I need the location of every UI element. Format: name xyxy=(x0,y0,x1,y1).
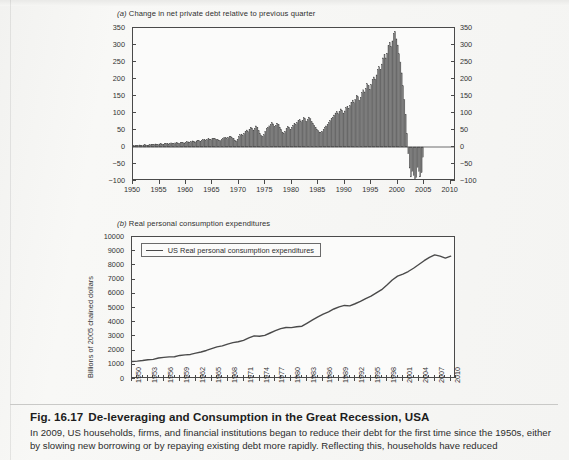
figure-caption: Fig. 16.17De-leveraging and Consumption … xyxy=(30,409,555,452)
panel-a-x-tick xyxy=(450,180,451,184)
panel-b-x-tick-label: 1986 xyxy=(325,367,334,383)
figure-number: Fig. 16.17 xyxy=(30,410,83,423)
panel-b-x-tick xyxy=(290,378,291,381)
panel-a-y-tick-label-right: −50 xyxy=(460,159,472,168)
panel-b-x-tick-label: 1992 xyxy=(357,367,366,383)
panel-a-y-tick-label-right: 200 xyxy=(460,74,472,83)
panel-a-x-tick-label: 1965 xyxy=(200,185,222,194)
panel-a-x-tick-label: 1990 xyxy=(333,185,355,194)
panel-b-x-tick-label: 1995 xyxy=(373,367,382,383)
page-left-rule xyxy=(10,0,11,460)
panel-a-y-tick-label-right: 0 xyxy=(460,142,464,151)
panel-b-x-tick-label: 1983 xyxy=(309,367,318,383)
panel-a-y-tick-label-right: 100 xyxy=(460,108,472,117)
panel-a-x-tick-label: 1995 xyxy=(359,185,381,194)
panel-a-y-tick-left xyxy=(132,112,136,113)
panel-a-y-tick-right xyxy=(451,129,455,130)
panel-a-x-tick-label: 1980 xyxy=(280,185,302,194)
panel-b-x-tick xyxy=(450,378,451,381)
panel-b-y-tick xyxy=(131,307,135,308)
panel-a-y-tick-label-right: −100 xyxy=(460,176,476,185)
panel-b-x-tick xyxy=(274,378,275,381)
panel-a-y-tick-right xyxy=(451,44,455,45)
panel-a-y-tick-right xyxy=(451,61,455,62)
panel-a-x-tick xyxy=(291,180,292,184)
panel-a-x-tick-label: 1970 xyxy=(227,185,249,194)
panel-b-x-tick-label: 2010 xyxy=(453,367,462,383)
panel-b-x-tick xyxy=(243,378,244,381)
panel-b-y-tick-label: 6000 xyxy=(0,288,124,297)
panel-a-y-tick-right xyxy=(451,180,455,181)
panel-b-x-tick xyxy=(418,378,419,381)
panel-a-y-tick-label-left: 100 xyxy=(0,108,125,117)
panel-b-x-tick-label: 1974 xyxy=(262,367,271,383)
panel-b-x-tick xyxy=(131,378,132,381)
panel-a-y-tick-right xyxy=(451,146,455,147)
panel-a-y-tick-label-right: 250 xyxy=(460,57,472,66)
panel-a-x-tick xyxy=(132,180,133,184)
panel-a-y-tick-left xyxy=(132,95,136,96)
panel-a-x-tick xyxy=(397,180,398,184)
panel-a-x-tick xyxy=(185,180,186,184)
panel-b-y-tick-label: 7000 xyxy=(0,274,124,283)
panel-a-x-tick-label: 2000 xyxy=(386,185,408,194)
panel-a-x-tick xyxy=(264,180,265,184)
panel-b-x-tick xyxy=(163,378,164,381)
panel-b-x-tick-label: 2007 xyxy=(437,367,446,383)
panel-b-x-tick xyxy=(402,378,403,381)
panel-b-title-text: Real personal consumption expenditures xyxy=(129,219,270,228)
panel-b-x-tick-label: 1980 xyxy=(293,367,302,383)
panel-b-x-tick-label: 1977 xyxy=(277,367,286,383)
panel-a-x-tick xyxy=(211,180,212,184)
panel-b-y-tick-label: 10000 xyxy=(0,232,124,241)
panel-a-y-tick-left xyxy=(132,163,136,164)
panel-b-title: (b) Real personal consumption expenditur… xyxy=(117,219,270,228)
page-top-shade xyxy=(0,0,569,6)
panel-a-bar-series xyxy=(133,28,455,180)
panel-b-x-tick-label: 1989 xyxy=(341,367,350,383)
panel-b-x-tick-label: 1971 xyxy=(246,367,255,383)
panel-b-y-tick xyxy=(131,321,135,322)
panel-a-x-tick xyxy=(238,180,239,184)
panel-a-x-tick xyxy=(317,180,318,184)
panel-b-plot-area xyxy=(131,236,455,378)
legend-line-swatch xyxy=(146,250,163,251)
panel-a-y-tick-label-left: 0 xyxy=(0,142,125,151)
panel-b-x-tick xyxy=(227,378,228,381)
panel-a-y-tick-left xyxy=(132,129,136,130)
panel-a-y-tick-label-right: 350 xyxy=(460,23,472,32)
panel-a-y-tick-left xyxy=(132,146,136,147)
panel-a-y-tick-right xyxy=(451,95,455,96)
panel-a-y-tick-label-left: 50 xyxy=(0,125,125,134)
panel-a-y-tick-right xyxy=(451,112,455,113)
panel-b-y-tick xyxy=(131,293,135,294)
panel-a-title-text: Change in net private debt relative to p… xyxy=(129,9,316,18)
panel-a-y-tick-label-right: 150 xyxy=(460,91,472,100)
panel-b-y-tick-label: 5000 xyxy=(0,303,124,312)
panel-b-x-tick-label: 1953 xyxy=(150,367,159,383)
panel-a-title-prefix: (a) xyxy=(117,9,127,18)
panel-a-y-tick-label-left: −50 xyxy=(0,159,125,168)
caption-heading: Fig. 16.17De-leveraging and Consumption … xyxy=(30,409,555,424)
panel-b-y-tick-label: 1000 xyxy=(0,359,124,368)
panel-b-y-tick-label: 2000 xyxy=(0,345,124,354)
panel-b-y-tick xyxy=(131,264,135,265)
caption-divider xyxy=(10,404,558,405)
panel-b-x-tick xyxy=(322,378,323,381)
panel-a-y-tick-right xyxy=(451,27,455,28)
panel-b-x-tick-label: 1998 xyxy=(389,367,398,383)
panel-b-x-tick-label: 1959 xyxy=(182,367,191,383)
panel-b-x-tick xyxy=(386,378,387,381)
panel-b-x-tick xyxy=(179,378,180,381)
panel-a-x-tick xyxy=(423,180,424,184)
panel-a-y-tick-label-right: 300 xyxy=(460,40,472,49)
panel-b-x-tick xyxy=(195,378,196,381)
figure-title: De-leveraging and Consumption in the Gre… xyxy=(88,410,429,423)
panel-b-y-tick-label: 8000 xyxy=(0,260,124,269)
panel-a-x-tick xyxy=(344,180,345,184)
panel-a-plot-area xyxy=(132,27,455,180)
panel-a-y-tick-right xyxy=(451,163,455,164)
panel-b-y-tick xyxy=(131,279,135,280)
legend-label: US Real personal consumption expenditure… xyxy=(168,246,314,255)
panel-a-y-tick-label-left: 350 xyxy=(0,23,125,32)
